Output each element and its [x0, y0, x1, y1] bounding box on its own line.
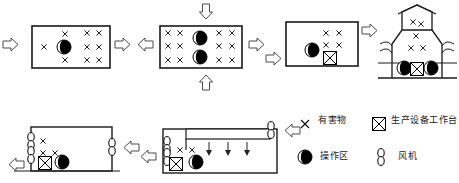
workbench-panel-5	[39, 157, 52, 170]
inflow-arrow-panel-2	[138, 38, 153, 51]
supply-arrow-bottom-panel-2	[200, 75, 213, 90]
panel-3-room	[286, 22, 358, 66]
legend-icon-fan	[378, 149, 384, 166]
workbench-panel-3	[324, 52, 337, 65]
panel-4-building	[378, 5, 457, 78]
intake-arrow-panel-6	[285, 124, 300, 137]
inflow-arrow-panel-3	[266, 52, 281, 65]
legend-icon-half-circle	[298, 150, 312, 164]
panel-6-room	[141, 122, 300, 173]
intake-arrow-panel-5	[124, 141, 139, 154]
workbench-panel-6	[170, 158, 183, 171]
legend-icon-x-mark	[301, 120, 309, 128]
outflow-arrow-panel-3	[362, 24, 377, 37]
legend-label-workbench: 生产设备工作台	[391, 115, 458, 126]
workbench-panel-4	[411, 63, 424, 76]
outflow-arrow-panel-1	[115, 38, 130, 51]
legend-label-operator-zone: 操作区	[320, 151, 349, 162]
supply-arrow-top-panel-2	[200, 4, 213, 19]
exhaust-arrow-panel-6	[141, 150, 156, 163]
diagram-canvas	[0, 0, 459, 183]
fan-left-panel-5	[28, 133, 34, 164]
exhaust-arrow-panel-5	[9, 158, 24, 171]
panel-5-room	[9, 127, 139, 171]
panel-2-room	[160, 4, 242, 90]
panel-1-room	[32, 26, 110, 68]
ventilation-diagram: 有害物 生产设备工作台 操作区 风机	[0, 0, 459, 183]
legend-label-fan: 风机	[398, 151, 417, 162]
inflow-arrow-panel-1	[3, 38, 18, 51]
legend-icon-crossed-box	[373, 118, 386, 131]
outflow-arrow-panel-2	[249, 38, 264, 51]
legend-label-hazard: 有害物	[318, 115, 347, 126]
